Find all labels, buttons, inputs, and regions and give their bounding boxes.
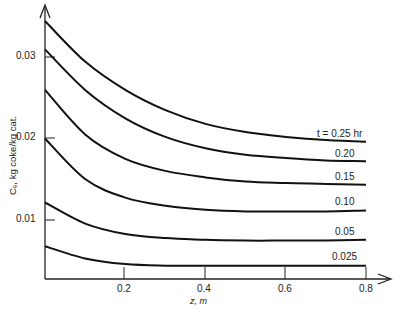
x-axis-label: z, m bbox=[190, 296, 207, 306]
curve-label-t015: 0.15 bbox=[335, 171, 354, 182]
curve-label-t025: t = 0.25 hr bbox=[317, 128, 362, 139]
curves bbox=[45, 21, 366, 266]
chart: 0.03 0.02 0.01 0.2 0.4 0.6 0.8 Cₑ, kg co… bbox=[0, 0, 403, 313]
curve-series-0 bbox=[45, 21, 366, 142]
y-tick-label: 0.01 bbox=[16, 213, 35, 224]
curve-label-t0025: 0.025 bbox=[332, 251, 357, 262]
y-tick-label: 0.03 bbox=[16, 50, 35, 61]
curve-label-t005: 0.05 bbox=[335, 226, 354, 237]
curve-label-t020: 0.20 bbox=[335, 148, 354, 159]
curve-label-t010: 0.10 bbox=[335, 196, 354, 207]
x-tick-label: 0.8 bbox=[359, 283, 373, 294]
x-tick-label: 0.6 bbox=[278, 283, 292, 294]
y-tick-label: 0.02 bbox=[16, 131, 35, 142]
curve-series-5 bbox=[45, 246, 366, 266]
curve-series-4 bbox=[45, 203, 366, 241]
curve-series-1 bbox=[45, 49, 366, 161]
x-tick-label: 0.4 bbox=[197, 283, 211, 294]
curve-series-3 bbox=[45, 139, 366, 212]
y-axis-label: Cₑ, kg coke/kg cat. bbox=[7, 96, 18, 216]
x-tick-label: 0.2 bbox=[117, 283, 131, 294]
